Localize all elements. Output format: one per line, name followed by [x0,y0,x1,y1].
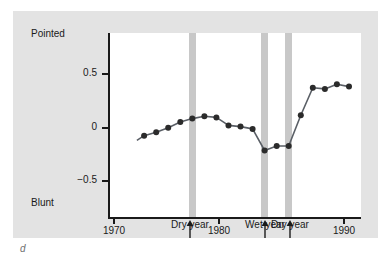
data-point [226,122,232,128]
y-tick-0 [102,127,108,129]
y-tick-minus-0.5 [102,180,108,182]
y-tick-label-0: 0 [51,122,97,132]
x-tick-label-1990: 1990 [321,226,367,236]
y-tick-label-minus-0.5: −0.5 [51,175,97,185]
figure-mark: d [20,243,26,254]
annotation-label-dry-1977: Dry year [158,219,222,230]
data-line-series [108,33,361,219]
y-axis [108,33,110,219]
annotation-label-dry-1985: Dry year [258,219,322,230]
data-point [177,119,183,125]
data-point [262,148,268,154]
data-markers [141,81,352,153]
axis-label-blunt: Blunt [31,198,54,208]
data-point [322,86,328,92]
x-tick-label-1970: 1970 [91,226,137,236]
y-tick-label-0.5: 0.5 [51,68,97,78]
data-point [213,114,219,120]
data-point [346,84,352,90]
x-tick-1990 [343,219,345,224]
data-point [334,81,340,87]
data-point [298,112,304,118]
data-point [286,143,292,149]
axis-label-pointed: Pointed [31,29,65,39]
data-point [238,124,244,130]
x-tick-1970 [113,219,115,224]
data-point [274,143,280,149]
chart-panel: 0.5 0 −0.5 Pointed Blunt 1970 1980 1990 … [13,11,378,238]
data-polyline [137,84,349,150]
data-point [189,116,195,122]
data-point [310,85,316,91]
data-point [250,126,256,132]
y-tick-0.5 [102,73,108,75]
data-point [165,125,171,131]
data-point [153,129,159,135]
data-point [141,133,147,139]
figure-container: 0.5 0 −0.5 Pointed Blunt 1970 1980 1990 … [0,0,391,260]
data-point [201,113,207,119]
